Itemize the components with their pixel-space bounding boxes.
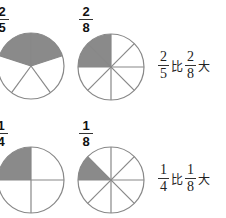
fraction-1-4: 1 4 — [158, 163, 169, 194]
comparison-statement-2: 1 4 比 1 8 大 — [157, 163, 211, 194]
denominator: 5 — [160, 67, 167, 81]
numerator: 1 — [160, 163, 167, 177]
numerator: 1 — [0, 118, 5, 133]
denominator: 8 — [187, 67, 194, 81]
numerator: 2 — [82, 4, 89, 19]
comparison-statement-1: 2 5 比 2 8 大 — [157, 50, 211, 81]
denominator: 8 — [187, 180, 194, 194]
compare-word: 比 — [171, 57, 183, 74]
pie-fifths — [0, 31, 66, 101]
numerator: 2 — [187, 50, 194, 64]
fraction-2-5: 2 5 — [158, 50, 169, 81]
numerator: 2 — [160, 50, 167, 64]
bigger-word: 大 — [198, 57, 210, 74]
numerator: 1 — [187, 163, 194, 177]
pie-eighths-2 — [76, 32, 146, 102]
fraction-label-2-5: 2 5 — [0, 6, 9, 34]
denominator: 4 — [160, 180, 167, 194]
fraction-label-2-8: 2 8 — [79, 6, 93, 34]
numerator: 1 — [82, 118, 89, 133]
fraction-1-8: 1 8 — [185, 163, 196, 194]
fraction-label-1-4: 1 4 — [0, 120, 8, 148]
pie-quarters — [0, 145, 66, 215]
numerator: 2 — [0, 4, 6, 19]
bigger-word: 大 — [198, 170, 210, 187]
fraction-label-1-8: 1 8 — [79, 120, 93, 148]
compare-word: 比 — [171, 170, 183, 187]
pie-eighths-1 — [76, 145, 146, 215]
fraction-2-8: 2 8 — [185, 50, 196, 81]
